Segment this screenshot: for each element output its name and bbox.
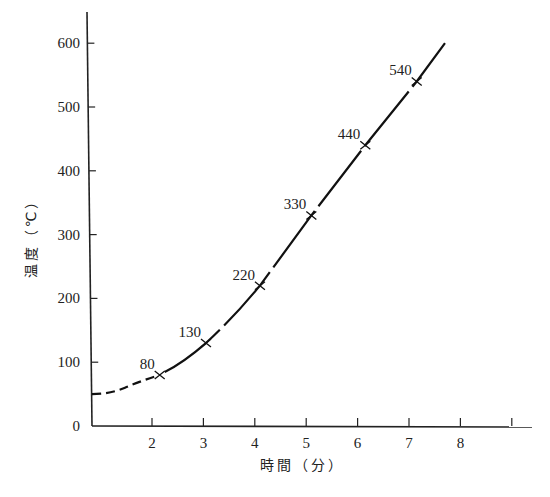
y-axis-line <box>87 12 92 426</box>
x-marker-icon <box>306 211 316 219</box>
y-tick-label: 100 <box>58 354 81 370</box>
x-marker-icon <box>412 77 422 85</box>
data-point-label: 540 <box>389 62 412 78</box>
y-tick-label: 400 <box>58 163 81 179</box>
y-tick-label: 200 <box>58 290 81 306</box>
temperature-time-chart: 01002003004005006002345678 8013022033044… <box>0 0 550 497</box>
y-tick-label: 300 <box>58 227 81 243</box>
axes: 01002003004005006002345678 <box>58 12 533 451</box>
data-point-label: 80 <box>140 356 155 372</box>
point-labels: 80130220330440540 <box>140 62 412 371</box>
data-point-label: 130 <box>178 324 201 340</box>
x-marker-icon <box>155 371 165 379</box>
y-axis-title: 温度（℃） <box>23 192 39 279</box>
x-axis-title: 時間（分） <box>260 457 345 473</box>
curves <box>92 43 445 394</box>
y-tick-label: 500 <box>58 99 81 115</box>
x-tick-label: 3 <box>200 435 208 451</box>
x-tick-label: 4 <box>251 435 259 451</box>
data-point-label: 330 <box>284 196 307 212</box>
x-marker-icon <box>255 282 265 290</box>
x-marker-icon <box>360 141 370 149</box>
x-tick-label: 5 <box>302 435 310 451</box>
x-tick-label: 2 <box>148 435 156 451</box>
x-tick-label: 7 <box>405 435 413 451</box>
x-tick-label: 6 <box>354 435 362 451</box>
y-tick-label: 0 <box>73 418 81 434</box>
x-marker-icon <box>201 339 211 347</box>
y-tick-label: 600 <box>58 35 81 51</box>
x-tick-label: 8 <box>457 435 465 451</box>
extrapolated-dashed-curve <box>92 376 156 394</box>
data-point-label: 440 <box>338 126 361 142</box>
x-axis-line <box>92 426 532 427</box>
data-point-label: 220 <box>232 267 255 283</box>
